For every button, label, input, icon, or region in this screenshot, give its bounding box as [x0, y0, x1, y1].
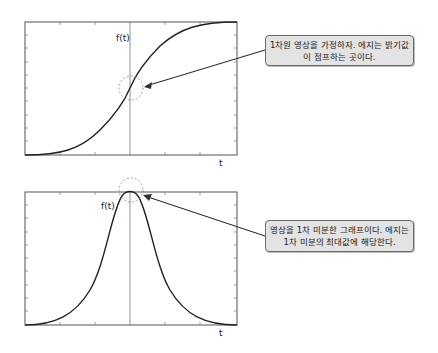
- bottom-callout: 영상을 1차 미분한 그래프이다. 에지는 1차 미분의 최대값에 해당한다.: [265, 220, 414, 252]
- top-plot: [25, 22, 265, 155]
- bell-curve: [25, 192, 237, 326]
- callout-arrow: [145, 196, 265, 236]
- callout-arrow: [146, 50, 265, 86]
- arrow-head: [144, 82, 152, 89]
- edge-highlight-circle: [119, 76, 143, 100]
- sigmoid-curve: [25, 22, 237, 155]
- bottom-plot: [25, 178, 265, 325]
- top-callout: 1차원 영상을 가정하자. 에지는 밝기값이 점프하는 곳이다.: [265, 35, 414, 66]
- top-y-label: f(t): [116, 33, 130, 43]
- peak-highlight-circle: [119, 178, 143, 202]
- top-x-label: t: [219, 158, 223, 168]
- bottom-x-label: t: [219, 328, 223, 338]
- bottom-y-label: f(t): [101, 201, 115, 211]
